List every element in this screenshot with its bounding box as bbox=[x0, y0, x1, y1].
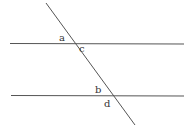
diagram-canvas: a c b d bbox=[0, 0, 192, 127]
angle-label-a: a bbox=[59, 32, 65, 43]
bottom-parallel-line bbox=[11, 96, 184, 97]
top-parallel-line bbox=[10, 44, 184, 45]
angle-label-b: b bbox=[95, 84, 101, 95]
angle-label-c: c bbox=[79, 43, 85, 54]
angle-label-d: d bbox=[104, 98, 111, 109]
transversal-line bbox=[46, 3, 135, 125]
